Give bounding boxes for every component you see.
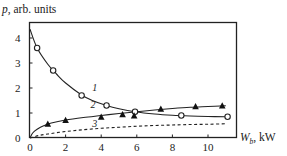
circle-marker [79, 93, 84, 98]
y-tick-label: 4 [15, 32, 21, 44]
x-tick-label: 4 [98, 141, 104, 153]
curve-label-1: 1 [92, 82, 97, 93]
y-axis-title: p, arb. units [1, 3, 57, 16]
y-tick-label: 3 [15, 57, 21, 69]
x-tick-label: 10 [203, 141, 215, 153]
axis-ticks: 024681001234 [15, 32, 214, 153]
y-tick-label: 2 [15, 82, 21, 94]
x-tick-label: 0 [27, 141, 33, 153]
y-tick-label: 1 [15, 107, 21, 119]
curves [30, 29, 226, 138]
x-tick-label: 6 [134, 141, 140, 153]
curve-label-2: 2 [91, 99, 96, 110]
circle-marker [104, 103, 109, 108]
triangle-marker [192, 103, 199, 109]
curve-3 [30, 124, 226, 138]
curve-labels: 123 [91, 82, 98, 129]
chart: 024681001234 123 p, arb. units Wb, kW [0, 0, 287, 156]
plot-frame [30, 23, 237, 138]
triangle-marker [158, 106, 165, 112]
triangle-marker [98, 114, 105, 120]
x-tick-label: 2 [63, 141, 69, 153]
x-tick-label: 8 [170, 141, 176, 153]
y-tick-label: 0 [15, 132, 21, 144]
curve-label-3: 3 [91, 118, 97, 129]
circle-marker [225, 114, 230, 119]
circle-marker [50, 68, 55, 73]
x-axis-title: Wb, kW [240, 131, 276, 146]
triangle-marker [119, 111, 126, 117]
circle-marker [34, 45, 39, 50]
y-axis-unit: , arb. units [8, 3, 57, 16]
data-markers [34, 45, 230, 126]
plot-border [30, 23, 237, 138]
curve-1 [30, 29, 226, 117]
x-axis-unit: , kW [253, 131, 276, 144]
circle-marker [132, 109, 137, 114]
circle-marker [179, 113, 184, 118]
